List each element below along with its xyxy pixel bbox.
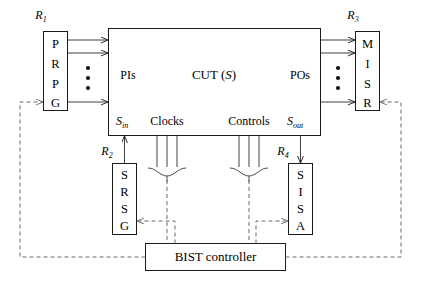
misr-letter-3: R (363, 96, 372, 110)
pi-bus-dot-0 (86, 66, 90, 70)
prpg-letter-0: P (52, 37, 59, 51)
cut-controls-label: Controls (228, 114, 270, 128)
pi-bus-dot-2 (86, 86, 90, 90)
srsg-letter-3: G (120, 219, 129, 233)
prpg-letter-3: G (51, 96, 60, 110)
bist-controller-label: BIST controller (175, 249, 257, 264)
misr-letter-0: M (362, 37, 373, 51)
sisa-letter-3: A (296, 219, 305, 233)
misr-letter-2: S (364, 77, 371, 91)
sisa-tag: R4 (276, 144, 288, 160)
po-bus-dot-2 (336, 86, 340, 90)
srsg-letter-2: S (121, 202, 128, 216)
bist-diagram: CUT (S) PIs POs Sin Sout Clocks Controls… (0, 0, 427, 283)
prpg-letter-2: P (52, 77, 59, 91)
controller-to-sisa-link (256, 221, 288, 244)
controls-bundle-brace (230, 168, 268, 176)
cut-label: CUT (S) (192, 67, 236, 82)
pi-bus-dot-1 (86, 76, 90, 80)
srsg-letter-0: S (121, 168, 128, 182)
diagram-canvas: CUT (S) PIs POs Sin Sout Clocks Controls… (0, 0, 427, 283)
cut-pis-label: PIs (120, 68, 136, 82)
po-bus-dot-1 (336, 76, 340, 80)
controller-to-srsg-link (137, 221, 175, 244)
po-bus-dot-0 (336, 66, 340, 70)
misr-tag: R3 (346, 8, 358, 24)
cut-pos-label: POs (290, 68, 310, 82)
srsg-letter-1: R (120, 185, 129, 199)
srsg-tag: R2 (100, 144, 112, 160)
sisa-letter-1: I (298, 185, 302, 199)
cut-clocks-label: Clocks (150, 114, 184, 128)
sisa-letter-0: S (297, 168, 304, 182)
prpg-tag: R1 (34, 8, 46, 24)
sisa-letter-2: S (297, 202, 304, 216)
misr-letter-1: I (365, 57, 369, 71)
clocks-bundle-brace (148, 168, 186, 176)
prpg-letter-1: R (51, 57, 60, 71)
